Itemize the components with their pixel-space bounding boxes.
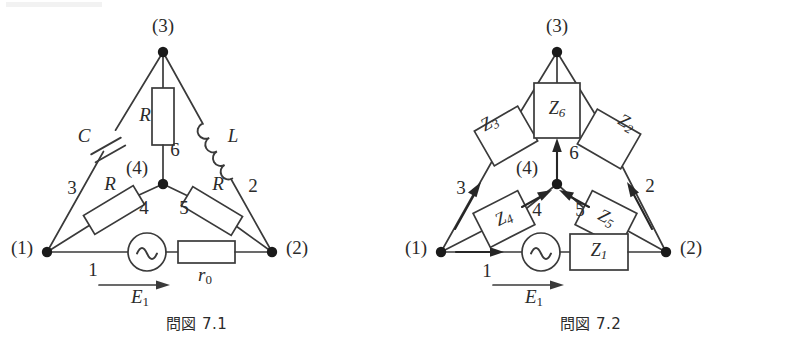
node-label-4: (4) <box>516 157 538 179</box>
branch-6-resistor-group <box>152 52 174 184</box>
source-label-E1-sub: 1 <box>143 294 150 309</box>
node-label-4: (4) <box>126 157 148 179</box>
node-label-2: (2) <box>286 237 308 259</box>
branch-1-source-resistor-group <box>47 233 272 271</box>
node-1-dot <box>42 247 52 257</box>
branch-label-6: 6 <box>170 139 180 160</box>
figure-7-2-caption: 問図 7.2 <box>394 312 787 333</box>
node-4-dot <box>158 179 168 189</box>
component-label-R6: R <box>138 104 151 125</box>
node-4-dot <box>552 179 562 189</box>
branch-6-arrow <box>552 138 562 182</box>
branch-label-5: 5 <box>179 197 189 218</box>
branch-label-6: 6 <box>569 142 579 163</box>
node-label-1: (1) <box>11 237 33 259</box>
component-label-r0-sub: 0 <box>205 272 212 287</box>
figure-7-1-caption: 問図 7.1 <box>0 312 393 333</box>
node-label-3: (3) <box>152 15 174 37</box>
component-label-R5: R <box>211 173 224 194</box>
figure-7-2-canvas: (1) (2) (3) (4) 1 2 3 4 5 6 Z1 Z2 Z3 Z4 <box>394 0 787 310</box>
figure-7-1-canvas: (1) (2) (3) (4) 1 2 3 4 5 6 C L R R R r0… <box>0 0 393 310</box>
branch-3-wire-lower <box>47 152 104 253</box>
branch-4-wire-lower <box>47 225 90 252</box>
branch-label-2: 2 <box>645 175 655 196</box>
node-3-dot <box>552 47 562 57</box>
branch-label-1: 1 <box>88 259 98 280</box>
component-label-L: L <box>227 125 239 146</box>
node-label-2: (2) <box>680 237 702 259</box>
figure-7-2-panel: (1) (2) (3) (4) 1 2 3 4 5 6 Z1 Z2 Z3 Z4 <box>394 0 787 354</box>
node-3-dot <box>158 47 168 57</box>
source-label-E1-sub: 1 <box>537 294 544 309</box>
branch-1-arrow <box>456 247 504 257</box>
branch-label-3: 3 <box>67 177 77 198</box>
branch-label-4: 4 <box>532 199 542 220</box>
branch-label-5: 5 <box>575 199 585 220</box>
node-2-dot <box>267 247 277 257</box>
component-label-r0: r0 <box>198 264 212 286</box>
impedance-label-Z6-sub: 6 <box>559 105 566 120</box>
resistor-R6-body <box>152 88 174 145</box>
source-label-E1-base: E <box>524 286 537 307</box>
capacitor-C-symbol <box>91 138 125 163</box>
node-label-3: (3) <box>546 15 568 37</box>
source-label-E1: E1 <box>130 286 149 308</box>
source-label-E1: E1 <box>524 286 543 308</box>
impedance-label-Z1-sub: 1 <box>601 247 608 262</box>
branch-label-4: 4 <box>139 197 149 218</box>
source-label-E1-base: E <box>130 286 143 307</box>
figure-sheet: (1) (2) (3) (4) 1 2 3 4 5 6 C L R R R r0… <box>0 0 787 354</box>
node-1-dot <box>436 247 446 257</box>
component-label-C: C <box>78 125 91 146</box>
branch-label-2: 2 <box>248 175 258 196</box>
branch-label-3: 3 <box>456 177 466 198</box>
branch-5-wire-lower <box>236 226 272 252</box>
node-label-1: (1) <box>405 237 427 259</box>
branch-1-source-impedance-group <box>441 233 666 271</box>
figure-7-1-panel: (1) (2) (3) (4) 1 2 3 4 5 6 C L R R R r0… <box>0 0 393 354</box>
node-2-dot <box>661 247 671 257</box>
resistor-r0-body <box>178 241 235 263</box>
branch-label-1: 1 <box>482 260 492 281</box>
component-label-R4: R <box>103 173 116 194</box>
